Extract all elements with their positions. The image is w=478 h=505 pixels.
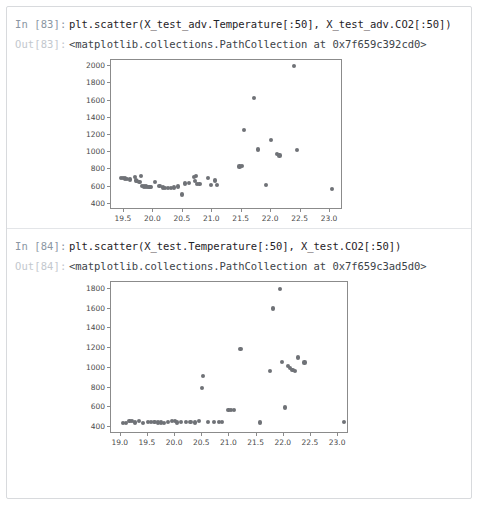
scatter-point [176, 184, 180, 188]
x-tick-mark [182, 209, 183, 212]
scatter-point [258, 420, 262, 424]
out-prompt-84: Out[84]: [7, 257, 69, 275]
scatter-point [172, 185, 176, 189]
x-tick-mark [201, 433, 202, 436]
scatter-point [283, 405, 287, 409]
x-tick-label: 21.0 [203, 214, 220, 223]
scatter-point [268, 369, 272, 373]
y-tick-label: 1800 [86, 78, 105, 87]
x-tick-label: 22.0 [262, 214, 279, 223]
code-input-row-84[interactable]: In [84]: plt.scatter(X_test.Temperature[… [7, 229, 471, 255]
scatter-point [271, 306, 275, 310]
x-tick-mark [147, 433, 148, 436]
scatter-point [240, 164, 244, 168]
x-tick-mark [329, 209, 330, 212]
scatter-point [128, 177, 132, 181]
y-tick-label: 600 [91, 181, 105, 190]
y-tick-label: 400 [91, 198, 105, 207]
x-tick-mark [123, 209, 124, 212]
x-tick-label: 20.0 [144, 214, 161, 223]
y-tick-mark [107, 203, 110, 204]
y-tick-label: 600 [91, 402, 105, 411]
x-tick-label: 19.5 [139, 438, 156, 447]
y-tick-label: 1200 [86, 130, 105, 139]
x-tick-label: 22.0 [274, 438, 291, 447]
scatter-point [139, 174, 143, 178]
y-tick-mark [107, 288, 110, 289]
y-tick-label: 1400 [86, 323, 105, 332]
x-tick-label: 21.5 [247, 438, 264, 447]
y-tick-mark [107, 151, 110, 152]
scatter-point [264, 183, 268, 187]
x-tick-mark [283, 433, 284, 436]
y-tick-label: 1600 [86, 303, 105, 312]
x-tick-label: 20.5 [173, 214, 190, 223]
x-tick-mark [152, 209, 153, 212]
code-text-84[interactable]: plt.scatter(X_test.Temperature[:50], X_t… [69, 237, 401, 255]
y-tick-label: 2000 [86, 61, 105, 70]
output-row-83: Out[83]: <matplotlib.collections.PathCol… [7, 33, 471, 53]
y-tick-mark [107, 426, 110, 427]
plot-wrapper-84: 4006008001000120014001600180019.019.520.… [7, 275, 472, 455]
scatter-point [197, 182, 201, 186]
y-tick-label: 1000 [86, 147, 105, 156]
y-tick-mark [107, 347, 110, 348]
scatter-plot-2: 4006008001000120014001600180019.019.520.… [7, 275, 472, 455]
scatter-point [232, 408, 236, 412]
scatter-point [206, 420, 210, 424]
y-tick-mark [107, 308, 110, 309]
x-tick-mark [310, 433, 311, 436]
scatter-point [238, 347, 242, 351]
notebook-container: In [83]: plt.scatter(X_test_adv.Temperat… [6, 6, 472, 499]
plot-wrapper-83: 40060080010001200140016001800200019.520.… [7, 53, 472, 228]
notebook-cell-84[interactable]: In [84]: plt.scatter(X_test.Temperature[… [7, 229, 471, 455]
y-tick-label: 1200 [86, 343, 105, 352]
code-input-row-83[interactable]: In [83]: plt.scatter(X_test_adv.Temperat… [7, 7, 471, 33]
scatter-point [220, 420, 224, 424]
x-tick-mark [120, 433, 121, 436]
y-tick-mark [107, 65, 110, 66]
x-tick-label: 20.0 [166, 438, 183, 447]
y-tick-label: 1600 [86, 95, 105, 104]
x-tick-label: 23.0 [321, 214, 338, 223]
scatter-plot-1: 40060080010001200140016001800200019.520.… [7, 53, 472, 228]
y-tick-mark [107, 406, 110, 407]
y-tick-label: 800 [91, 164, 105, 173]
y-tick-label: 1000 [86, 362, 105, 371]
code-text-83[interactable]: plt.scatter(X_test_adv.Temperature[:50],… [69, 15, 452, 33]
notebook-cell-83[interactable]: In [83]: plt.scatter(X_test_adv.Temperat… [7, 7, 471, 228]
x-tick-label: 21.5 [232, 214, 249, 223]
scatter-point [280, 360, 284, 364]
x-tick-label: 19.0 [111, 438, 128, 447]
x-tick-mark [228, 433, 229, 436]
x-tick-label: 23.0 [329, 438, 346, 447]
y-tick-mark [107, 117, 110, 118]
x-tick-label: 19.5 [115, 214, 132, 223]
x-tick-mark [256, 433, 257, 436]
x-tick-label: 20.5 [193, 438, 210, 447]
y-tick-mark [107, 134, 110, 135]
x-tick-mark [174, 433, 175, 436]
y-tick-mark [107, 367, 110, 368]
x-tick-mark [337, 433, 338, 436]
y-tick-mark [107, 186, 110, 187]
scatter-point [302, 360, 306, 364]
y-tick-label: 1800 [86, 283, 105, 292]
y-tick-label: 400 [91, 422, 105, 431]
scatter-point [180, 192, 184, 196]
y-tick-label: 1400 [86, 112, 105, 121]
out-prompt-83: Out[83]: [7, 35, 69, 53]
y-tick-mark [107, 168, 110, 169]
y-tick-mark [107, 387, 110, 388]
y-tick-mark [107, 100, 110, 101]
x-tick-label: 22.5 [291, 214, 308, 223]
x-tick-label: 22.5 [302, 438, 319, 447]
x-tick-label: 21.0 [220, 438, 237, 447]
x-tick-mark [211, 209, 212, 212]
scatter-point [188, 420, 192, 424]
scatter-point [213, 178, 217, 182]
out-text-84: <matplotlib.collections.PathCollection a… [69, 257, 426, 275]
y-tick-mark [107, 82, 110, 83]
in-prompt-84: In [84]: [7, 237, 69, 255]
x-tick-mark [300, 209, 301, 212]
